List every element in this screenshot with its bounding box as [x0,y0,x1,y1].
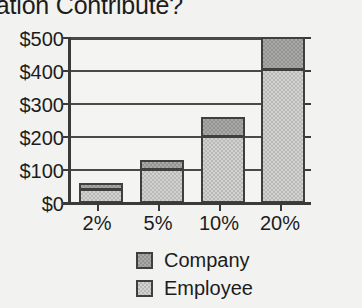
legend-label-company: Company [164,249,250,271]
bar-stack-10pct[interactable] [201,117,245,203]
legend-item-employee[interactable]: Employee [136,274,253,302]
legend-label-employee: Employee [164,277,253,299]
chart-title: oration Contribute? [0,0,362,19]
y-tick-mark-200-right [304,136,311,138]
bar-stack-2pct[interactable] [79,183,123,203]
legend-swatch-company-icon [136,252,153,269]
x-tick-mark-5pct [158,203,160,211]
y-tick-mark-300-right [304,103,311,105]
x-axis-label-5pct: 5% [126,212,190,234]
y-tick-mark-400-right [304,70,311,72]
x-axis-label-20pct: 20% [248,212,312,234]
bar-stack-5pct[interactable] [140,160,184,203]
bar-segment-company-20pct[interactable] [261,37,305,70]
bar-segment-employee-20pct[interactable] [261,69,305,203]
y-axis-label-200: $200 [20,128,65,148]
y-axis-label-500: $500 [20,29,65,49]
plot-area [68,37,305,203]
x-tick-mark-10pct [219,203,221,211]
legend-swatch-employee-icon [136,280,153,297]
legend-item-company[interactable]: Company [136,246,253,274]
y-tick-mark-500-right [304,37,311,39]
bar-segment-employee-10pct[interactable] [201,136,245,203]
y-tick-mark-100-right [304,169,311,171]
y-axis-label-300: $300 [20,95,65,115]
bar-segment-company-5pct[interactable] [140,160,184,170]
bar-segment-employee-5pct[interactable] [140,169,184,203]
bar-segment-company-2pct[interactable] [79,183,123,190]
x-axis-label-2pct: 2% [65,212,129,234]
x-axis-label-10pct: 10% [187,212,251,234]
chart-legend: Company Employee [136,246,253,302]
y-axis-label-0: $0 [42,194,64,214]
x-tick-mark-2pct [97,203,99,211]
chart-figure: oration Contribute? $500 $400 $300 $200 … [0,0,362,308]
y-axis-label-400: $400 [20,62,65,82]
bar-stack-20pct[interactable] [261,37,305,203]
y-axis-label-100: $100 [20,161,65,181]
bar-segment-company-10pct[interactable] [201,117,245,137]
x-tick-mark-20pct [280,203,282,211]
x-axis-baseline [62,202,311,205]
bar-segment-employee-2pct[interactable] [79,189,123,203]
